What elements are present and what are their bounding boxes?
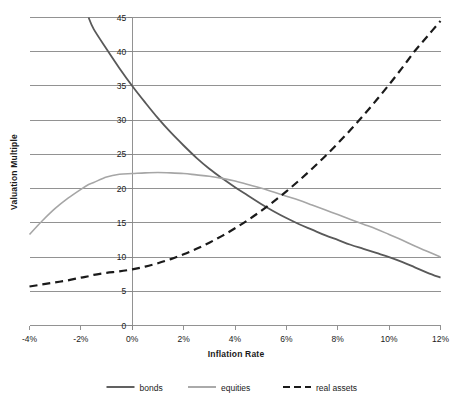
y-tick-label: 20 [117, 184, 127, 194]
y-axis-title: Valuation Multiple [9, 134, 19, 210]
chart-legend: bondsequitiesreal assets [107, 383, 358, 393]
x-tick-label: -2% [73, 334, 89, 344]
y-tick-label: 25 [117, 149, 127, 159]
y-tick-label: 10 [117, 252, 127, 262]
x-tick-label: 10% [381, 334, 398, 344]
x-tick-label: 2% [177, 334, 190, 344]
x-tick-label: -4% [22, 334, 38, 344]
legend-label-real-assets: real assets [316, 383, 357, 393]
y-tick-label: 5 [122, 286, 127, 296]
legend-label-equities: equities [221, 383, 250, 393]
y-tick-label: 15 [117, 218, 127, 228]
chart-container: 051015202530354045 -4%-2%0%2%4%6%8%10%12… [0, 0, 453, 406]
x-tick-label: 8% [332, 334, 345, 344]
y-tick-label: 35 [117, 81, 127, 91]
x-tick-label: 6% [280, 334, 293, 344]
x-tick-labels-group: -4%-2%0%2%4%6%8%10%12% [22, 334, 450, 344]
chart-background [0, 0, 453, 406]
legend-label-bonds: bonds [140, 383, 163, 393]
x-axis-title: Inflation Rate [208, 349, 265, 359]
x-tick-label: 0% [126, 334, 139, 344]
x-tick-label: 12% [432, 334, 449, 344]
y-tick-label: 0 [122, 321, 127, 331]
x-tick-label: 4% [229, 334, 242, 344]
y-tick-label: 30 [117, 115, 127, 125]
valuation-multiple-line-chart: 051015202530354045 -4%-2%0%2%4%6%8%10%12… [0, 0, 453, 406]
y-tick-label: 45 [117, 13, 127, 23]
y-tick-label: 40 [117, 47, 127, 57]
